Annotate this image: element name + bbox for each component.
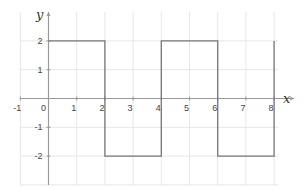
y-axis-arrow-icon [47,12,51,16]
y-tick-label: -2 [34,151,42,161]
x-tick-label: 8 [269,103,274,113]
x-tick-label: 1 [71,103,76,113]
x-tick-label: 2 [99,103,104,113]
x-axis-label: x [283,91,291,106]
x-tick-label: 7 [240,103,245,113]
x-tick-label: 6 [212,103,217,113]
x-tick-label: -1 [13,103,21,113]
x-tick-label: 0 [41,103,46,113]
y-tick-label: 1 [37,65,42,75]
x-tick-label: 3 [128,103,133,113]
square-wave-chart: -1012345678-2-112 x y [0,0,305,190]
x-axis-arrow-icon [290,97,294,101]
y-axis-label: y [35,7,44,22]
axes [20,12,294,185]
y-tick-label: 2 [37,36,42,46]
y-tick-label: -1 [34,122,42,132]
x-tick-label: 5 [184,103,189,113]
x-tick-label: 4 [156,103,161,113]
